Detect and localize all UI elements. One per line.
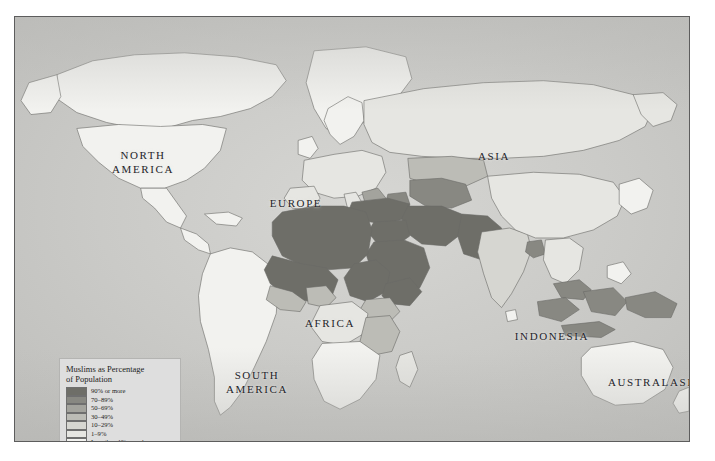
legend-label: 30–49% xyxy=(91,413,113,422)
legend-row: 90% or more xyxy=(66,387,175,396)
legend-label: 1–9% xyxy=(91,430,106,439)
legend-swatch-50-69 xyxy=(66,404,87,413)
legend-row: Less than 1% or unknown xyxy=(66,438,175,442)
legend-swatch-less-than-1 xyxy=(66,438,87,442)
legend-label: 10–29% xyxy=(91,421,113,430)
legend-label: 70–89% xyxy=(91,396,113,405)
world-map-frame: NORTH AMERICA SOUTH AMERICA EUROPE AFRIC… xyxy=(14,16,690,442)
legend-label: 90% or more xyxy=(91,387,125,396)
map-page: NORTH AMERICA SOUTH AMERICA EUROPE AFRIC… xyxy=(0,0,715,461)
legend-row: 50–69% xyxy=(66,404,175,413)
top-caption xyxy=(300,0,715,13)
legend-swatch-1-9 xyxy=(66,430,87,439)
legend-row: 70–89% xyxy=(66,396,175,405)
legend-swatch-90-or-more xyxy=(66,387,87,396)
legend-label: 50–69% xyxy=(91,404,113,413)
legend-swatch-70-89 xyxy=(66,396,87,405)
legend-label: Less than 1% or unknown xyxy=(91,438,160,442)
map-legend: Muslims as Percentage of Population 90% … xyxy=(59,358,181,442)
legend-row: 10–29% xyxy=(66,421,175,430)
legend-swatch-10-29 xyxy=(66,421,87,430)
legend-row: 1–9% xyxy=(66,430,175,439)
legend-title: Muslims as Percentage of Population xyxy=(66,364,175,384)
legend-swatch-30-49 xyxy=(66,413,87,422)
legend-row: 30–49% xyxy=(66,413,175,422)
